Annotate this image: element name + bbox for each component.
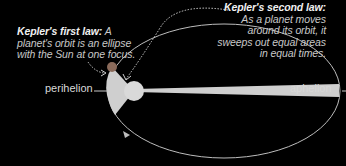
first-law-pointer — [88, 62, 104, 73]
first-law-arrowhead-icon — [101, 70, 106, 76]
perihelion-label: perihelion — [45, 82, 93, 94]
second-law-text: As a planet moves around its orbit, it s… — [217, 13, 326, 60]
orbit-direction-arrow-icon — [123, 131, 130, 138]
aphelion-label: aphelion — [290, 82, 332, 94]
second-law-callout: Kepler's second law: As a planet moves a… — [216, 2, 326, 60]
first-law-callout: Kepler's first law: A planet's orbit is … — [17, 26, 137, 61]
second-law-heading: Kepler's second law: — [224, 1, 326, 13]
second-law-arrowhead-icon — [123, 74, 131, 80]
sun — [124, 81, 144, 101]
planet — [107, 62, 117, 72]
first-law-heading: Kepler's first law: — [17, 25, 102, 37]
